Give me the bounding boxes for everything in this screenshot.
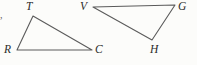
- vertex-label-c: C: [95, 44, 103, 56]
- triangle-rtc-shape: [17, 16, 92, 50]
- geometry-figure: , T C R V G H: [0, 0, 197, 65]
- vertex-label-t: T: [26, 1, 32, 13]
- vertex-label-r: R: [4, 44, 11, 56]
- vertex-label-g: G: [178, 1, 186, 13]
- triangle-vgh-shape: [93, 5, 175, 40]
- vertex-label-h: H: [150, 44, 158, 56]
- vertex-label-v: V: [80, 1, 87, 13]
